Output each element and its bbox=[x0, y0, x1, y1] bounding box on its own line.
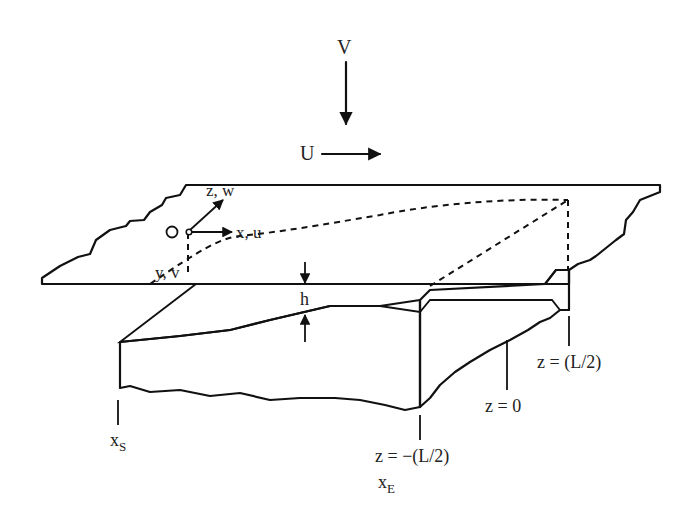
x-axis-label: x, u bbox=[236, 223, 262, 242]
velocity-u-label: U bbox=[300, 142, 315, 164]
substrate-front-face bbox=[120, 300, 420, 410]
x-start-marker: xS bbox=[110, 400, 126, 454]
velocity-v-indicator: V bbox=[337, 36, 352, 124]
x-end-label: xE bbox=[378, 472, 395, 496]
gap-h-indicator: h bbox=[300, 262, 309, 342]
z-zero-label: z = 0 bbox=[485, 396, 521, 416]
y-axis-label: y, v bbox=[155, 263, 180, 282]
z-axis-label: z, w bbox=[206, 181, 235, 200]
x-end-marker: z = −(L/2) xE bbox=[375, 415, 449, 496]
gap-h-label: h bbox=[300, 289, 309, 309]
velocity-v-label: V bbox=[337, 36, 352, 58]
z-pos-label: z = (L/2) bbox=[537, 352, 601, 373]
projection-lines bbox=[150, 200, 568, 286]
velocity-u-indicator: U bbox=[300, 142, 380, 164]
z-neg-label: z = −(L/2) bbox=[375, 446, 449, 467]
z-pos-marker: z = (L/2) bbox=[537, 316, 601, 373]
z-zero-marker: z = 0 bbox=[485, 340, 521, 416]
z-axis-arrow-icon bbox=[190, 200, 223, 230]
x-start-label: xS bbox=[110, 430, 126, 454]
origin-marker-icon bbox=[167, 227, 178, 238]
fluid-side-face bbox=[420, 270, 569, 407]
flow-geometry-diagram: V U O z, w x, u y, v h bbox=[0, 0, 698, 524]
